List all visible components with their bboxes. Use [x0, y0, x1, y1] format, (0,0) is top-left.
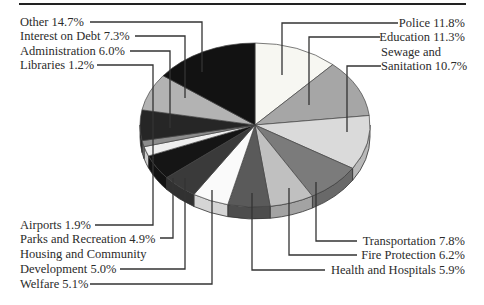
label-police: Police 11.8%: [399, 16, 465, 30]
label-housing-line1: Housing and Community: [20, 247, 146, 261]
label-parks: Parks and Recreation 4.9%: [20, 232, 155, 246]
label-education: Education 11.3%: [379, 30, 465, 44]
label-health: Health and Hospitals 5.9%: [331, 263, 465, 277]
label-other: Other 14.7%: [20, 15, 84, 29]
label-housing-line2: Development 5.0%: [20, 262, 117, 276]
label-libraries: Libraries 1.2%: [20, 58, 94, 72]
label-sewage-line1: Sewage and: [381, 45, 441, 59]
label-fire-protection: Fire Protection 6.2%: [361, 248, 465, 262]
label-interest-on-debt: Interest on Debt 7.3%: [20, 29, 130, 43]
label-administration: Administration 6.0%: [20, 44, 125, 58]
label-sewage-line2: Sanitation 10.7%: [381, 59, 467, 73]
label-transportation: Transportation 7.8%: [363, 234, 465, 248]
label-welfare: Welfare 5.1%: [20, 277, 88, 291]
pie-top-face: [140, 43, 370, 207]
label-airports: Airports 1.9%: [20, 218, 91, 232]
